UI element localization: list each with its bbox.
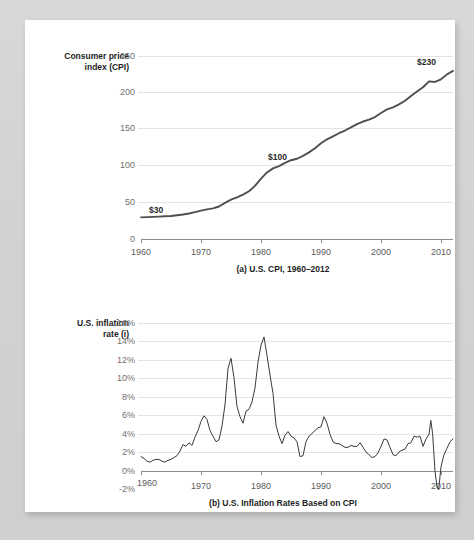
figure-card: Consumer price index (CPI) 250 200 150 1… bbox=[25, 20, 455, 512]
inflation-x-tick-2000: 2000 bbox=[371, 481, 391, 491]
inflation-x-tick-1990: 1990 bbox=[311, 481, 331, 491]
inflation-x-tick-2010: 2010 bbox=[431, 481, 451, 491]
cpi-y-tick-150: 150 bbox=[120, 123, 135, 133]
cpi-y-tick-0: 0 bbox=[130, 234, 135, 244]
chart-panel-cpi: Consumer price index (CPI) 250 200 150 1… bbox=[25, 20, 455, 280]
cpi-data-line bbox=[141, 71, 453, 217]
inflation-y-tick-4: 4% bbox=[122, 429, 135, 439]
cpi-annotation-30: $30 bbox=[149, 205, 163, 215]
cpi-gridlines bbox=[138, 56, 453, 202]
cpi-y-axis-title-line2: index (CPI) bbox=[85, 62, 130, 72]
inflation-caption: (b) U.S. Inflation Rates Based on CPI bbox=[209, 498, 357, 508]
inflation-y-tick-10: 10% bbox=[117, 373, 135, 383]
cpi-x-tick-1960: 1960 bbox=[131, 247, 151, 257]
inflation-x-tickmarks bbox=[141, 471, 441, 475]
inflation-x-tick-1960: 1960 bbox=[137, 478, 157, 488]
inflation-y-tick-16: 16% bbox=[117, 318, 135, 328]
inflation-x-tick-1970: 1970 bbox=[191, 481, 211, 491]
cpi-chart-svg: Consumer price index (CPI) 250 200 150 1… bbox=[25, 20, 455, 280]
inflation-y-tick-2: 2% bbox=[122, 447, 135, 457]
inflation-x-tick-1980: 1980 bbox=[251, 481, 271, 491]
inflation-y-tick-neg2: -2% bbox=[119, 484, 135, 494]
cpi-y-tick-250: 250 bbox=[120, 51, 135, 61]
cpi-x-tick-2010: 2010 bbox=[431, 247, 451, 257]
inflation-chart-svg: U.S. inflation rate (i) 16% 14% 12% 10% … bbox=[25, 278, 455, 512]
cpi-x-tick-2000: 2000 bbox=[371, 247, 391, 257]
cpi-x-tick-1970: 1970 bbox=[191, 247, 211, 257]
inflation-y-tick-14: 14% bbox=[117, 336, 135, 346]
cpi-x-tickmarks bbox=[141, 239, 441, 243]
inflation-y-tick-6: 6% bbox=[122, 410, 135, 420]
cpi-y-tick-50: 50 bbox=[125, 197, 135, 207]
cpi-y-tick-200: 200 bbox=[120, 87, 135, 97]
inflation-gridlines bbox=[138, 323, 453, 452]
chart-panel-inflation: U.S. inflation rate (i) 16% 14% 12% 10% … bbox=[25, 278, 455, 512]
inflation-y-tick-12: 12% bbox=[117, 355, 135, 365]
inflation-y-tick-0: 0% bbox=[122, 466, 135, 476]
cpi-x-tick-1980: 1980 bbox=[251, 247, 271, 257]
cpi-annotation-100: $100 bbox=[268, 152, 287, 162]
cpi-y-tick-100: 100 bbox=[120, 160, 135, 170]
cpi-x-tick-1990: 1990 bbox=[311, 247, 331, 257]
cpi-annotation-230: $230 bbox=[417, 57, 436, 67]
cpi-caption: (a) U.S. CPI, 1960–2012 bbox=[236, 264, 329, 274]
inflation-y-tick-8: 8% bbox=[122, 392, 135, 402]
